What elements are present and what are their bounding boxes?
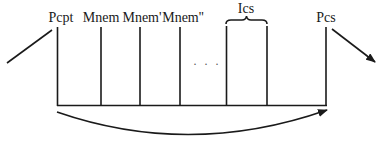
return-curve-arrow	[57, 110, 327, 135]
label-mnem: Mnem	[83, 10, 120, 25]
label-pcpt: Pcpt	[49, 10, 74, 25]
ics-brace	[226, 16, 267, 24]
stage-diagram: · · · Pcpt Mnem Mnem' Mnem'' Ics Pcs	[0, 0, 381, 145]
ellipsis: · · ·	[193, 57, 221, 71]
incoming-line	[7, 30, 52, 63]
label-ics: Ics	[238, 1, 254, 16]
label-pcs: Pcs	[316, 10, 335, 25]
outgoing-arrow	[332, 29, 375, 62]
label-mnem-double-prime: Mnem''	[162, 10, 204, 25]
label-mnem-prime: Mnem'	[122, 10, 161, 25]
